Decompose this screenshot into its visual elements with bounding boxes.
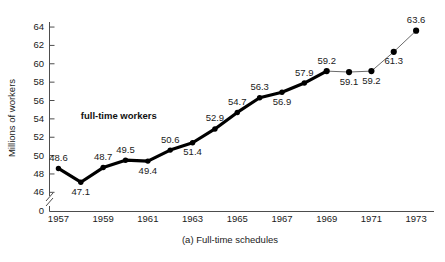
data-point-label-1964: 52.9: [206, 112, 225, 123]
data-point-1969: [324, 68, 330, 74]
data-point-1965: [235, 110, 240, 115]
y-tick-marks: [50, 27, 55, 192]
x-tick-label-1959: 1959: [93, 213, 114, 224]
x-tick-label-1965: 1965: [227, 213, 248, 224]
data-point-label-1967: 56.9: [273, 96, 292, 107]
y-axis: 46485052545658606264 0 Millions of worke…: [6, 21, 55, 215]
x-tick-label-1971: 1971: [361, 213, 382, 224]
y-tick-label-60: 60: [33, 58, 44, 69]
x-tick-label-1967: 1967: [271, 213, 292, 224]
y-tick-labels: 46485052545658606264: [33, 21, 44, 197]
y-tick-label-56: 56: [33, 95, 44, 106]
data-point-1964: [212, 126, 217, 131]
data-point-label-1970: 59.1: [340, 76, 359, 87]
data-point-1958: [78, 180, 83, 185]
y-tick-label-58: 58: [33, 76, 44, 87]
data-point-1962: [168, 147, 173, 152]
data-point-label-1973: 63.6: [407, 14, 426, 25]
data-point-1967: [279, 90, 284, 95]
x-tick-label-1961: 1961: [137, 213, 158, 224]
data-point-label-1961: 49.4: [139, 165, 158, 176]
data-point-1973: [413, 28, 419, 34]
data-point-1966: [257, 95, 262, 100]
y-tick-label-46: 46: [33, 186, 44, 197]
y-tick-label-48: 48: [33, 168, 44, 179]
data-point-1970: [346, 69, 352, 75]
data-point-label-1968: 57.9: [295, 67, 314, 78]
x-tick-label-1963: 1963: [182, 213, 203, 224]
data-point-label-1959: 48.7: [94, 151, 113, 162]
data-point-1960: [123, 157, 128, 162]
y-tick-label-52: 52: [33, 131, 44, 142]
data-point-label-1958: 47.1: [72, 186, 91, 197]
data-point-1971: [368, 68, 374, 74]
data-point-label-1969: 59.2: [317, 55, 336, 66]
annotation-full-time-workers: full-time workers: [81, 110, 157, 121]
data-point-label-1971: 59.2: [362, 75, 381, 86]
chart-annotations: full-time workers: [81, 110, 157, 121]
chart-caption: (a) Full-time schedules: [182, 234, 278, 245]
y-tick-label-62: 62: [33, 39, 44, 50]
x-axis: 195719591961196319651967196919711973: [48, 212, 434, 225]
y-tick-label-50: 50: [33, 150, 44, 161]
data-point-1972: [391, 49, 397, 55]
full-time-schedules-line-chart: 46485052545658606264 0 Millions of worke…: [0, 0, 445, 262]
x-tick-label-1969: 1969: [316, 213, 337, 224]
y-tick-label-64: 64: [33, 21, 44, 32]
x-tick-label-1957: 1957: [48, 213, 69, 224]
data-point-label-1972: 61.3: [385, 55, 404, 66]
y-axis-origin-label: 0: [39, 205, 44, 216]
data-point-labels: 48.647.148.749.549.450.651.452.954.756.3…: [49, 14, 425, 197]
series-line-thick: [58, 71, 326, 182]
data-point-label-1965: 54.7: [228, 96, 247, 107]
chart-container: 46485052545658606264 0 Millions of worke…: [0, 0, 445, 262]
data-point-label-1957: 48.6: [49, 152, 68, 163]
data-point-1961: [145, 158, 150, 163]
x-tick-label-1973: 1973: [406, 213, 427, 224]
data-point-1959: [100, 165, 105, 170]
data-point-label-1966: 56.3: [250, 81, 269, 92]
x-tick-labels: 195719591961196319651967196919711973: [48, 213, 427, 224]
data-point-label-1963: 51.4: [183, 146, 202, 157]
y-tick-label-54: 54: [33, 113, 44, 124]
y-axis-title: Millions of workers: [6, 79, 17, 157]
data-point-1957: [56, 166, 61, 171]
data-point-1968: [302, 80, 307, 85]
data-point-1963: [190, 140, 195, 145]
data-point-label-1960: 49.5: [116, 144, 135, 155]
data-point-label-1962: 50.6: [161, 134, 180, 145]
